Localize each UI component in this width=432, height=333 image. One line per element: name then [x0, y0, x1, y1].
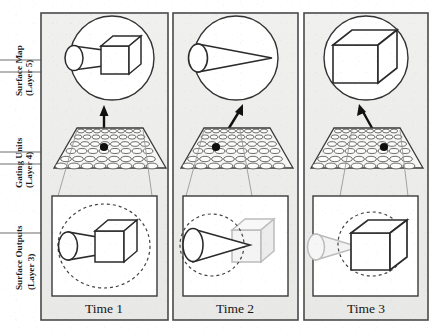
label-surface-outputs-line1: Surface Outputs	[14, 225, 24, 290]
panel-2-surface-output	[180, 196, 288, 296]
figure-canvas: Surface Map (Layer 5) Gating Units (Laye…	[0, 0, 432, 333]
output-cube-3	[351, 220, 407, 270]
cube-shape-3	[333, 30, 397, 83]
gating-active-unit-2	[212, 143, 220, 151]
panel-3-surface-output	[308, 196, 419, 296]
output-cube-2	[232, 219, 274, 262]
cone-shape-1	[65, 46, 103, 71]
panel-time-3[interactable]: Time 3	[304, 13, 428, 320]
time-label-3: Time 3	[347, 301, 385, 316]
panel-1-surface-output	[52, 196, 157, 296]
output-cube-1	[95, 220, 137, 262]
diagram-svg: Surface Map (Layer 5) Gating Units (Laye…	[0, 0, 432, 333]
time-label-1: Time 1	[85, 301, 123, 316]
label-gating-units-line1: Gating Units	[14, 137, 24, 188]
panel-time-1[interactable]: Time 1	[41, 13, 168, 320]
panel-3-surface-map	[324, 16, 408, 100]
gating-active-unit-1	[100, 143, 108, 151]
label-surface-map-line1: Surface Map	[14, 45, 24, 96]
label-surface-map-line2: (Layer 5)	[24, 60, 34, 96]
label-gating-units-line2: (Layer 4)	[24, 152, 34, 188]
output-cone-1	[59, 232, 98, 260]
cube-shape-1	[101, 36, 141, 74]
gating-active-unit-3	[380, 143, 388, 151]
time-label-2: Time 2	[216, 301, 254, 316]
panel-time-2[interactable]: Time 2	[173, 13, 298, 320]
label-surface-outputs-line2: (Layer 3)	[26, 254, 36, 290]
